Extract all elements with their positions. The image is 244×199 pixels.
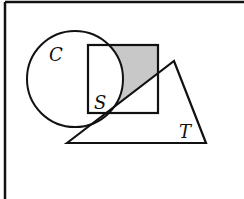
- diagram-svg: C S T: [0, 0, 244, 199]
- label-s: S: [94, 92, 106, 113]
- label-c: C: [49, 44, 63, 65]
- label-t: T: [179, 121, 193, 142]
- set-diagram: C S T: [0, 0, 244, 199]
